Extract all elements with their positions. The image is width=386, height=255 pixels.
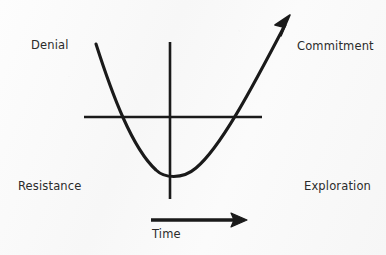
change-curve-path bbox=[96, 25, 285, 177]
label-time-axis: Time bbox=[152, 228, 181, 241]
curve-arrowhead-icon bbox=[275, 15, 290, 36]
label-denial: Denial bbox=[31, 39, 69, 52]
time-arrowhead-icon bbox=[231, 213, 247, 227]
label-exploration: Exploration bbox=[304, 180, 371, 193]
change-curve-diagram: Denial Commitment Resistance Exploration… bbox=[0, 0, 386, 255]
label-resistance: Resistance bbox=[18, 180, 81, 193]
label-commitment: Commitment bbox=[297, 40, 374, 53]
